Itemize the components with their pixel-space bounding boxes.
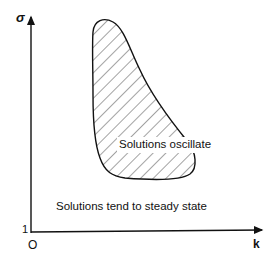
diagram-canvas [0,0,280,257]
x-axis-label: k [253,237,260,251]
origin-label: O [28,238,37,252]
y-axis-label: σ [16,10,25,25]
steady-region-label: Solutions tend to steady state [56,200,207,212]
oscillate-region-label: Solutions oscillate [119,138,211,150]
oscillation-region [93,20,196,180]
x-axis [31,230,262,232]
y-tick-label: 1 [22,223,28,235]
